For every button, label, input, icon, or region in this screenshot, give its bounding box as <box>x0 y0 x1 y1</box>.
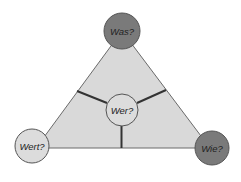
node-top: Was? <box>104 13 140 49</box>
node-top-label: Was? <box>110 26 135 37</box>
node-bottom-right-label: Wie? <box>201 143 223 154</box>
node-center: Wer? <box>106 94 138 126</box>
node-bottom-left-label: Wert? <box>19 141 45 152</box>
node-center-label: Wer? <box>111 105 134 116</box>
triangle-diagram: Was? Wer? Wert? Wie? <box>0 0 241 182</box>
node-bottom-left: Wert? <box>15 129 49 163</box>
node-bottom-right: Wie? <box>195 131 229 165</box>
